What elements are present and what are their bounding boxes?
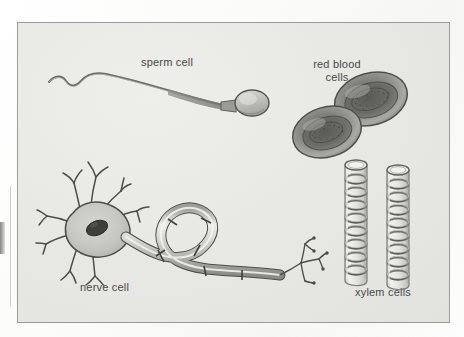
scanned-page: sperm cell red bloodcells nerve cell xyl…	[0, 0, 464, 337]
xylem-tube-right	[387, 165, 409, 290]
label-sperm-cell: sperm cell	[141, 56, 193, 69]
scan-edge-artifact	[0, 222, 5, 254]
label-red-blood-cells: red bloodcells	[301, 58, 373, 84]
label-nerve-cell: nerve cell	[80, 281, 129, 294]
label-red-blood-cells-line2: cells	[325, 71, 348, 83]
sperm-cell-art	[49, 73, 269, 116]
scan-edge-line	[10, 186, 11, 306]
label-red-blood-cells-line1: red blood	[313, 58, 361, 70]
xylem-cells-art	[345, 160, 409, 290]
cell-illustrations	[18, 23, 450, 323]
xylem-tube-left	[345, 160, 367, 286]
label-xylem-cells: xylem cells	[355, 286, 411, 299]
figure-frame: sperm cell red bloodcells nerve cell xyl…	[17, 22, 450, 323]
nerve-axon	[126, 208, 280, 280]
nerve-cell-art	[36, 162, 329, 286]
